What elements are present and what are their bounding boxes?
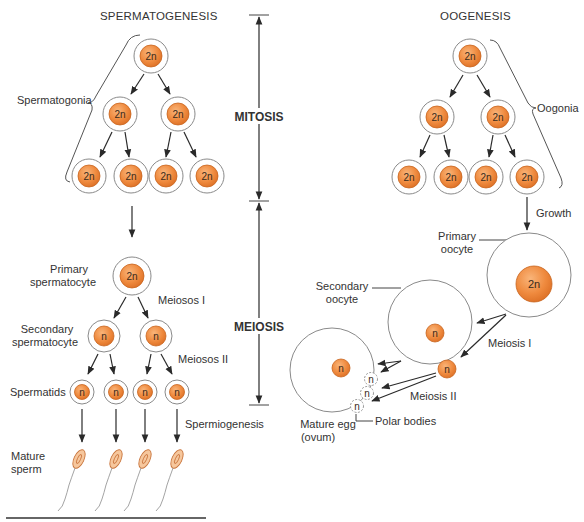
ploidy-label: 2n [492,112,503,123]
ploidy-label: n [368,374,374,385]
secondary-oocyte-label-line1: Secondary [316,280,369,292]
oogonium-cell: 2n [392,160,426,194]
division-arrow [110,354,114,374]
division-arrow [100,132,112,157]
oogonium-cell: 2n [453,39,487,73]
oogonium-cell: 2n [481,100,515,134]
ploidy-label: n [444,364,450,375]
mature-sperm [124,448,154,511]
mature-sperm-label-line1: Mature [11,450,45,462]
primary-spermatocyte-label-line2: spermatocyte [30,276,96,288]
division-arrow [184,132,196,157]
spermatogonium-cell: 2n [161,97,195,131]
oogonium-cell: 2n [510,160,544,194]
division-arrow [138,297,148,318]
ploidy-label: 2n [172,109,183,120]
primary-oocyte-label-line1: Primary [438,230,476,242]
division-arrow [450,75,463,97]
division-arrow [420,135,430,157]
growth-label: Growth [536,207,571,219]
ploidy-label: 2n [403,172,414,183]
oogonium-cell: 2n [469,160,503,194]
ploidy-label: n [354,401,360,412]
ploidy-label: n [338,363,344,374]
division-arrow [125,132,129,157]
mature-egg-label-line1: Mature egg [300,418,356,430]
gametogenesis-diagram: SPERMATOGENESIS OOGENESIS MITOSIS MEIOSI… [0,0,584,522]
ploidy-label: n [174,387,180,398]
polar-body: n [365,373,378,386]
mature-egg-cell: n [290,328,374,412]
ploidy-label: n [79,387,85,398]
ploidy-label: n [113,387,119,398]
mature-sperm [58,448,88,511]
polar-bodies-label: Polar bodies [375,415,437,427]
polar-body: n [361,387,374,400]
primary-spermatocyte-label-line1: Primary [50,263,88,275]
division-arrow [477,75,490,97]
ploidy-label: 2n [125,171,136,182]
secondary-oocyte-cell: n [388,280,472,364]
spermatogonium-cell: 2n [190,159,224,193]
primary-oocyte-cell: 2n [487,233,571,317]
polar-body: n [351,400,364,413]
spermatid-cell: n [70,380,94,404]
division-arrow [444,135,449,157]
mature-sperm [156,448,186,511]
division-arrow [166,132,171,157]
mature-sperm-label-line2: sperm [11,463,42,475]
division-arrow [505,135,515,157]
ploidy-label: 2n [445,172,456,183]
ploidy-label: 2n [521,172,532,183]
ploidy-label: n [101,331,107,342]
ploidy-label: n [364,388,370,399]
mature-egg-label-line2: (ovum) [301,431,335,443]
oogenesis-section: Oogonia 2n 2n 2n 2n 2n [290,39,579,443]
spermatid-cell: n [104,380,128,404]
oogonium-cell: 2n [420,100,454,134]
ploidy-label: 2n [528,278,540,290]
division-arrow [147,354,151,374]
ploidy-label: n [153,331,159,342]
secondary-spermatocyte-label-line1: Secondary [21,323,74,335]
spermatid-cell: n [133,380,157,404]
ploidy-label: 2n [480,172,491,183]
division-arrow [88,354,98,374]
phase-axis: MITOSIS MEIOSIS [234,15,284,405]
ploidy-label: 2n [160,171,171,182]
meiosis-label: MEIOSIS [234,320,284,334]
oogonium-cell: 2n [434,160,468,194]
secondary-oocyte-label-line2: oocyte [326,293,358,305]
division-arrow [489,135,493,157]
oogonia-label: Oogonia [537,102,579,114]
secondary-spermatocyte-label-line2: spermatocyte [12,336,78,348]
meiosis-1-label: Meiosos I [158,294,205,306]
secondary-spermatocyte-cell: n [88,320,120,352]
spermatogonium-cell: 2n [134,39,168,73]
division-arrow [114,297,126,318]
primary-spermatocyte-cell: 2n [113,257,151,295]
division-arrow [158,74,170,94]
spermatogonium-cell: 2n [72,159,106,193]
secondary-spermatocyte-cell: n [140,320,172,352]
division-arrow [131,74,144,94]
primary-oocyte-label-line2: oocyte [441,243,473,255]
first-polar-body: n [438,360,456,378]
mature-sperm [95,448,125,511]
ploidy-label: 2n [114,109,125,120]
ploidy-label: n [142,387,148,398]
spermatogonium-cell: 2n [149,159,183,193]
meiosis-2-arrow [382,373,436,388]
spermatid-cell: n [165,380,189,404]
spermiogenesis-label: Spermiogenesis [185,418,264,430]
ploidy-label: 2n [201,171,212,182]
mitosis-label: MITOSIS [234,110,283,124]
spermatogenesis-title: SPERMATOGENESIS [100,10,218,22]
ploidy-label: 2n [464,51,475,62]
oogenesis-title: OOGENESIS [440,10,511,22]
spermatogonia-label: Spermatogonia [17,94,92,106]
ploidy-label: 2n [126,271,137,282]
polar-bodies-leader [356,414,373,421]
meiosis-2-label: Meiosis II [410,390,456,402]
spermatogonium-cell: 2n [114,159,148,193]
